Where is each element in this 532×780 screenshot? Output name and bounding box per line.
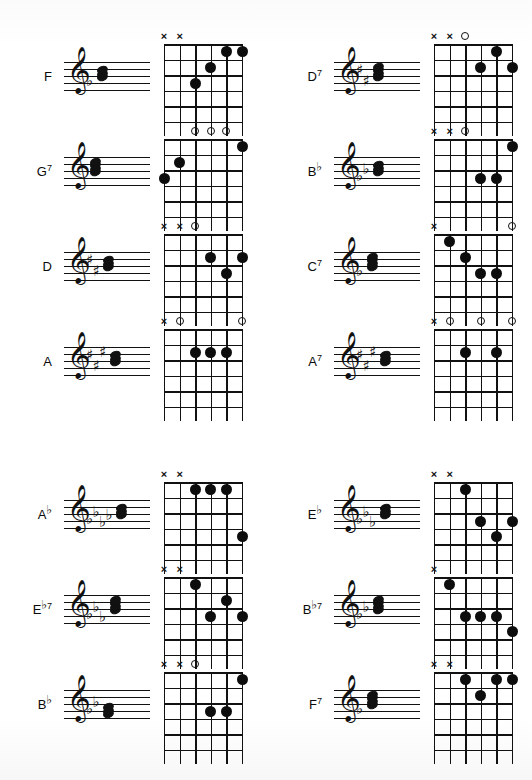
string-line — [434, 44, 435, 136]
muted-string-icon: × — [428, 658, 440, 670]
fret-line — [164, 513, 242, 514]
muted-string-icon: × — [428, 125, 440, 137]
muted-string-icon: × — [428, 563, 440, 575]
string-line — [226, 139, 227, 231]
open-string-icon — [506, 315, 518, 327]
music-staff: 𝄞♭♭♭♭ — [64, 490, 150, 538]
fret-grid — [164, 329, 242, 407]
string-markers: ×× — [164, 468, 242, 482]
string-line — [434, 234, 435, 326]
finger-dot — [475, 173, 486, 184]
fret-line — [434, 703, 512, 704]
chord-entry[interactable]: B♭𝄞♭♭×× — [288, 125, 512, 217]
string-line — [242, 329, 243, 421]
fret-line — [164, 312, 242, 313]
fret-line — [164, 688, 242, 689]
string-line — [481, 672, 482, 764]
chord-entry[interactable]: B♭7𝄞♭♭× — [288, 563, 512, 655]
string-line — [180, 482, 181, 574]
string-line — [450, 234, 451, 326]
string-line — [164, 482, 165, 574]
string-line — [450, 482, 451, 574]
fret-line — [164, 624, 242, 625]
chord-label: A7 — [288, 355, 322, 368]
fret-line — [434, 498, 512, 499]
fret-line — [434, 345, 512, 346]
muted-string-icon: × — [428, 468, 440, 480]
string-line — [164, 139, 165, 231]
muted-string-icon: × — [158, 220, 170, 232]
nut — [434, 234, 512, 236]
string-line — [512, 577, 513, 669]
chord-entry[interactable]: A𝄞♯♯♯× — [18, 315, 242, 407]
chord-entry[interactable]: E♭𝄞♭♭♭×× — [288, 468, 512, 560]
string-line — [226, 482, 227, 574]
fretboard-diagram: × — [434, 563, 512, 655]
muted-string-icon: × — [158, 658, 170, 670]
fret-line — [164, 407, 242, 408]
chord-root: D — [43, 259, 52, 274]
music-staff: 𝄞 — [64, 147, 150, 195]
fret-line — [164, 296, 242, 297]
string-line — [180, 672, 181, 764]
finger-dot — [237, 141, 248, 152]
string-line — [164, 577, 165, 669]
string-line — [242, 234, 243, 326]
string-line — [242, 482, 243, 574]
fret-grid — [164, 672, 242, 750]
string-line — [496, 672, 497, 764]
chord-entry[interactable]: D7𝄞♯♯×× — [288, 30, 512, 122]
muted-string-icon: × — [428, 30, 440, 42]
string-markers: ×× — [434, 468, 512, 482]
fret-line — [434, 624, 512, 625]
flat-icon: ♭ — [369, 515, 376, 530]
finger-dot — [475, 516, 486, 527]
string-line — [496, 139, 497, 231]
chord-root: A — [308, 354, 317, 369]
fret-grid — [434, 329, 512, 407]
string-markers: × — [434, 315, 512, 329]
nut — [434, 577, 512, 579]
finger-dot — [237, 611, 248, 622]
string-line — [180, 329, 181, 421]
chord-entry[interactable]: F7𝄞♭×× — [288, 658, 512, 750]
muted-string-icon: × — [428, 220, 440, 232]
finger-dot — [475, 690, 486, 701]
finger-dot — [491, 611, 502, 622]
chord-entry[interactable]: G7𝄞 — [18, 125, 242, 217]
fret-grid — [434, 672, 512, 750]
nut — [434, 329, 512, 331]
string-line — [242, 139, 243, 231]
chord-entry[interactable]: F𝄞♭×× — [18, 30, 242, 122]
chord-entry[interactable]: A♭𝄞♭♭♭♭×× — [18, 468, 242, 560]
chord-label: D7 — [288, 70, 322, 83]
chord-root: E — [33, 602, 42, 617]
fret-line — [164, 265, 242, 266]
chord-entry[interactable]: E♭7𝄞♭♭♭×× — [18, 563, 242, 655]
chord-entry[interactable]: C7𝄞♭× — [288, 220, 512, 312]
fret-line — [164, 593, 242, 594]
finger-dot — [491, 674, 502, 685]
fret-line — [434, 719, 512, 720]
flat-icon: ♭ — [363, 162, 370, 177]
finger-dot — [237, 252, 248, 263]
chord-accidental: ♭ — [46, 502, 52, 516]
chord-label: B♭7 — [288, 603, 322, 616]
fret-line — [164, 281, 242, 282]
muted-string-icon: × — [444, 468, 456, 480]
chord-entry[interactable]: D𝄞♯♯×× — [18, 220, 242, 312]
chord-label: A — [18, 355, 52, 368]
string-line — [195, 672, 196, 764]
fret-line — [164, 91, 242, 92]
string-line — [195, 139, 196, 231]
string-line — [496, 577, 497, 669]
chord-entry[interactable]: A7𝄞♯♯♯× — [288, 315, 512, 407]
string-line — [226, 234, 227, 326]
string-line — [450, 672, 451, 764]
fret-grid — [164, 44, 242, 122]
fret-grid — [434, 234, 512, 312]
music-staff: 𝄞♯♯♯ — [64, 337, 150, 385]
chord-entry[interactable]: B♭𝄞♭♭×× — [18, 658, 242, 750]
fret-line — [164, 170, 242, 171]
fret-line — [434, 170, 512, 171]
